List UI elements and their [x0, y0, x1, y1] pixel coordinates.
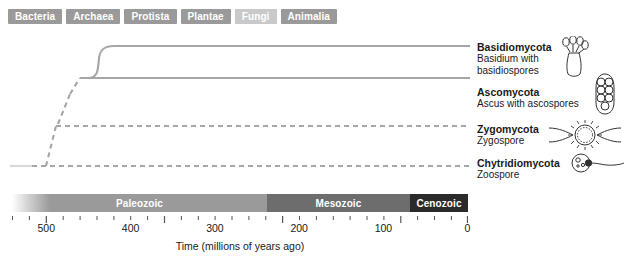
basidium-icon — [558, 36, 592, 82]
era-mesozoic: Mesozoic — [267, 194, 410, 212]
clade-subtitle-line1: Zoospore — [477, 169, 560, 181]
tick-label-500: 500 — [26, 222, 66, 234]
era-left-fade — [12, 194, 50, 212]
clade-name: Zygomycota — [477, 123, 539, 135]
era-cenozoic: Cenozoic — [410, 194, 468, 212]
tab-bacteria[interactable]: Bacteria — [8, 9, 62, 24]
clade-label-chytridiomycota: Chytridiomycota Zoospore — [477, 157, 560, 181]
zoospore-icon — [569, 152, 625, 180]
tab-protista[interactable]: Protista — [124, 9, 176, 24]
ascus-icon — [590, 72, 622, 120]
backbone-segment-3 — [70, 78, 80, 94]
axis-tick-labels: 500 400 300 200 100 0 — [0, 222, 627, 236]
tick-label-0: 0 — [448, 222, 488, 234]
clade-subtitle-line1: Basidium with — [477, 53, 552, 65]
branch-basidiomycota — [88, 46, 470, 78]
era-label: Cenozoic — [416, 198, 461, 209]
time-axis — [12, 212, 468, 222]
axis-minor-ticks — [13, 216, 452, 220]
clade-label-zygomycota: Zygomycota Zygospore — [477, 123, 539, 147]
tab-label: Archaea — [73, 11, 113, 22]
clade-label-basidiomycota: Basidiomycota Basidium with basidiospore… — [477, 41, 552, 76]
tab-fungi[interactable]: Fungi — [235, 9, 277, 24]
tab-label: Fungi — [242, 11, 270, 22]
axis-caption: Time (millions of years ago) — [0, 240, 480, 252]
tick-label-200: 200 — [279, 222, 319, 234]
tab-archaea[interactable]: Archaea — [66, 9, 120, 24]
clade-subtitle-line2: basidiospores — [477, 65, 552, 77]
clade-subtitle-line1: Ascus with ascospores — [477, 98, 579, 110]
tab-label: Bacteria — [15, 11, 55, 22]
tab-label: Plantae — [188, 11, 224, 22]
clade-label-ascomycota: Ascomycota Ascus with ascospores — [477, 86, 579, 110]
tick-label-400: 400 — [111, 222, 151, 234]
tab-label: Animalia — [288, 11, 330, 22]
tab-label: Protista — [131, 11, 169, 22]
backbone-segment-2 — [58, 94, 70, 124]
clade-name: Chytridiomycota — [477, 157, 560, 169]
era-label: Paleozoic — [116, 198, 163, 209]
era-label: Mesozoic — [316, 198, 362, 209]
clade-name: Ascomycota — [477, 86, 579, 98]
tab-plantae[interactable]: Plantae — [181, 9, 231, 24]
tick-label-300: 300 — [195, 222, 235, 234]
backbone-segment-1 — [46, 126, 56, 166]
zygospore-icon — [547, 120, 623, 154]
kingdom-tab-bar: Bacteria Archaea Protista Plantae Fungi … — [8, 9, 337, 24]
era-paleozoic: Paleozoic — [12, 194, 267, 212]
clade-name: Basidiomycota — [477, 41, 552, 53]
geologic-timeline-bar: Paleozoic Mesozoic Cenozoic — [12, 194, 468, 212]
tick-label-100: 100 — [363, 222, 403, 234]
tab-animalia[interactable]: Animalia — [281, 9, 337, 24]
clade-subtitle-line1: Zygospore — [477, 135, 539, 147]
